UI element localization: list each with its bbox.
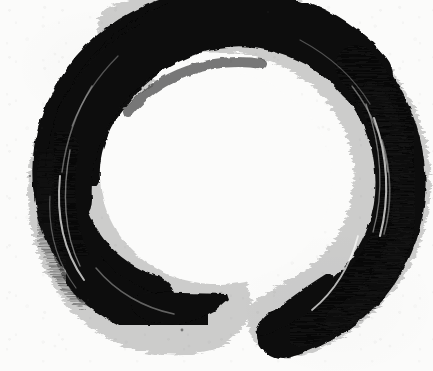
enso-artwork-canvas: Ensō A hand-painted black ink circle wit… xyxy=(0,0,433,371)
enso-circle-graphic xyxy=(0,0,433,371)
enso-ink-strokes xyxy=(29,8,415,335)
